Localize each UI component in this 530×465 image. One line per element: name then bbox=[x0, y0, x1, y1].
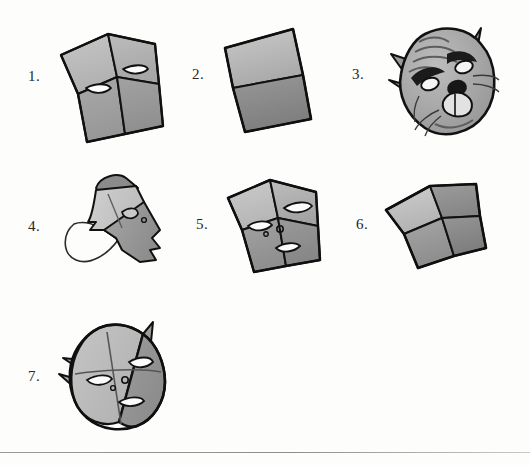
step-3-label: 3. bbox=[352, 66, 364, 83]
step-1-label: 1. bbox=[28, 68, 40, 85]
page-footer-rule bbox=[0, 452, 530, 453]
step-7-label: 7. bbox=[28, 368, 40, 385]
step-2-label: 2. bbox=[192, 66, 204, 83]
page-canvas: 1. bbox=[0, 0, 530, 465]
step-4-figure bbox=[60, 168, 190, 278]
step-2-figure bbox=[215, 20, 345, 150]
step-4-label: 4. bbox=[28, 218, 40, 235]
cat-face-icon bbox=[385, 18, 515, 148]
quartered-square-face-icon bbox=[222, 168, 352, 283]
step-1-figure bbox=[55, 22, 185, 152]
rolled-cone-icon bbox=[60, 168, 190, 278]
step-6-figure bbox=[380, 172, 510, 287]
half-folded-square-icon bbox=[215, 20, 345, 150]
step-5-figure bbox=[222, 168, 352, 283]
step-3-figure bbox=[385, 18, 515, 148]
quartered-square-icon bbox=[380, 172, 510, 287]
step-7-figure bbox=[55, 318, 185, 438]
step-6-label: 6. bbox=[356, 216, 368, 233]
folded-square-with-eyes-icon bbox=[55, 22, 185, 152]
rounded-mask-face-icon bbox=[55, 318, 185, 438]
step-5-label: 5. bbox=[196, 216, 208, 233]
